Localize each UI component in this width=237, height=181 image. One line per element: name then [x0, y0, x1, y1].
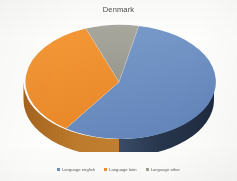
legend-item-other[interactable]: Language other	[146, 167, 180, 172]
legend-label-other: Language other	[151, 167, 180, 172]
pie-top-faces	[25, 25, 215, 139]
chart-legend: Language english Language latin Language…	[0, 167, 237, 172]
legend-swatch-icon	[57, 168, 60, 171]
legend-label-english: Language english	[62, 167, 95, 172]
pie-chart-figure: Denmark	[0, 0, 237, 181]
legend-label-latin: Language latin	[109, 167, 137, 172]
pie-plot-area	[0, 16, 237, 152]
chart-title: Denmark	[0, 5, 237, 14]
legend-item-english[interactable]: Language english	[57, 167, 95, 172]
pie-svg	[0, 16, 237, 152]
legend-item-latin[interactable]: Language latin	[104, 167, 137, 172]
legend-swatch-icon	[146, 168, 149, 171]
legend-swatch-icon	[104, 168, 107, 171]
